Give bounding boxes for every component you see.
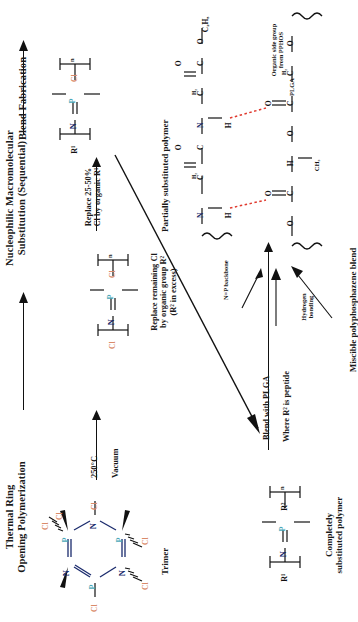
- blend-annotation-leaders: [236, 230, 356, 340]
- stage-label-blend: Blend Fabrication: [17, 57, 29, 140]
- label-organic-side-group: Organic side group from PPHOS: [270, 12, 284, 88]
- label-plga: PLGA: [288, 78, 295, 96]
- condition-temperature: 250°C: [90, 456, 99, 478]
- partial-atom-p: P: [68, 99, 77, 104]
- plga-atom-ch2: C: [286, 71, 295, 76]
- condition-replace-partial: Replace 25-50% Cl by organic R¹: [84, 166, 103, 228]
- trimer-cl-3: Cl: [90, 503, 99, 511]
- trimer-caption: Trimer: [160, 548, 170, 575]
- partial-atom-n: N: [68, 123, 78, 129]
- complete-repeat-n: n: [278, 486, 285, 490]
- polymerization-arrow-head: [89, 410, 109, 426]
- pphos-atom-c2: C: [196, 91, 205, 96]
- condition-replace-remaining: Replace remaining Cl by organic group R²…: [150, 236, 178, 348]
- trimer-cl-4: Cl: [141, 538, 150, 546]
- condition-blend-plga: Blend with PLGA: [262, 376, 271, 440]
- plga-atom-o-double-b: O: [264, 101, 273, 107]
- plga-atom-o-b: O: [286, 131, 295, 137]
- pphos-atom-c1: C: [196, 175, 205, 180]
- pphos-atom-o2: O: [174, 61, 183, 67]
- label-np-backbone: N=P backbone: [222, 260, 229, 300]
- trimer-atom-n3: N: [61, 570, 71, 576]
- pphos-atom-o1: O: [174, 145, 183, 151]
- pphos-atom-ch2b: H₂: [191, 89, 197, 95]
- plga-atom-ch3: CH₃: [313, 160, 320, 172]
- stage-arrow-thermal-shaft: [23, 300, 24, 410]
- complete-sub-right: R²: [280, 503, 289, 511]
- plga-atom-ch: H: [286, 161, 295, 167]
- partial-repeat-n: n: [68, 58, 75, 62]
- pphos-atom-c-carbonyl-2: C: [196, 61, 205, 66]
- pphos-atom-h2: H: [224, 123, 233, 129]
- pphos-atom-h1: H: [224, 213, 233, 219]
- stage-label-thermal: Thermal Ring Opening Polymerization: [4, 432, 28, 602]
- trimer-ring-bonds: [30, 485, 200, 622]
- trimer-cl-1: Cl: [55, 513, 64, 521]
- partial-sub-right: Cl: [70, 75, 79, 83]
- trimer-atom-p1: P: [61, 538, 70, 543]
- blend-caption: Miscible polyphosphazene blend: [348, 210, 358, 410]
- trimer-cl-2: Cl: [41, 523, 50, 531]
- trimer-atom-p3: P: [88, 585, 97, 590]
- stage-arrow-thermal-head: [16, 292, 36, 312]
- pphos-atom-n2: N: [196, 123, 205, 128]
- pphos-atom-ester-o: O: [196, 39, 205, 45]
- pphos-atom-c-carbonyl-1: C: [196, 145, 205, 150]
- plga-atom-c-a: C: [286, 191, 295, 196]
- pphos-atom-ethyl: C₂H₅: [201, 17, 210, 33]
- pphos-atom-ch2a: H₂: [191, 173, 197, 179]
- partial-polymer-bonds: [52, 42, 132, 152]
- complete-atom-n: N: [278, 551, 288, 557]
- complete-atom-p: P: [278, 527, 287, 532]
- trimer-cl-5: Cl: [141, 583, 150, 591]
- trimer-atom-n1: N: [88, 523, 98, 529]
- pphos-atom-n1: N: [196, 213, 205, 218]
- plga-atom-c-b: C: [286, 101, 295, 106]
- plga-atom-o-terminal: O: [286, 41, 295, 47]
- trimer-atom-n2: N: [117, 570, 127, 576]
- partial-sub-left: R¹: [70, 146, 79, 154]
- complete-polymer-caption: Completely substituted polymer: [324, 470, 344, 600]
- trimer-cl-6: Cl: [90, 605, 99, 613]
- complete-sub-left: R¹: [280, 574, 289, 582]
- plga-atom-o-double-a: O: [264, 191, 273, 197]
- trimer-atom-p2: P: [115, 538, 124, 543]
- plga-atom-o-a: O: [286, 221, 295, 227]
- condition-r2-peptide: Where R² is peptide: [282, 371, 291, 442]
